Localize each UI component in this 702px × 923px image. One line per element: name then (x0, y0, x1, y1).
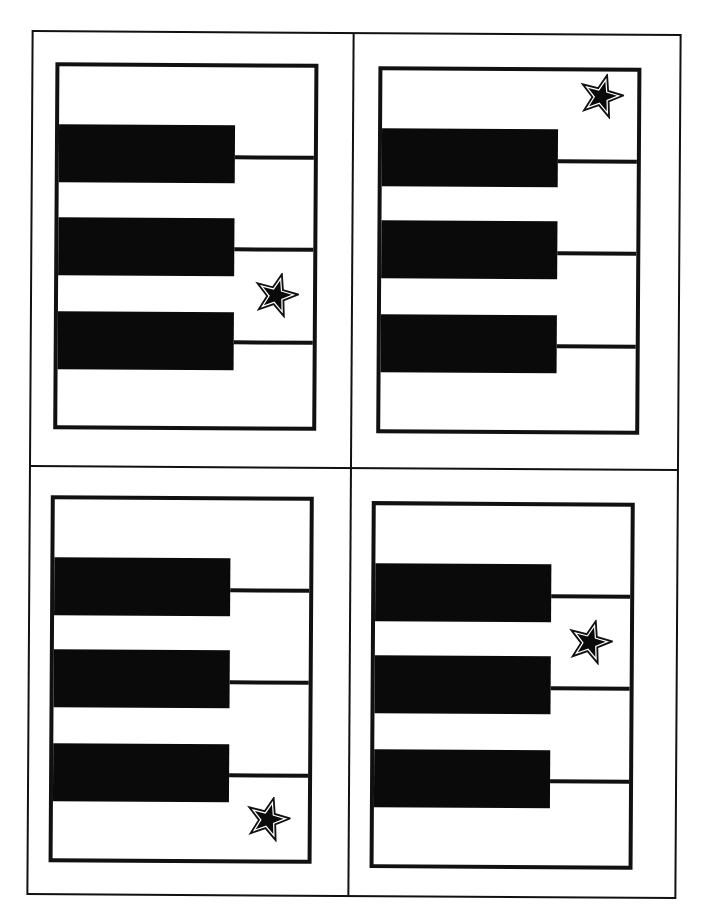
black-key-3 (374, 749, 550, 808)
black-key-3 (53, 743, 229, 802)
vertical-cut-line (347, 34, 354, 895)
white-key-divider-3 (557, 344, 636, 348)
piano-card-bottom-right (370, 501, 635, 870)
black-key-2 (58, 217, 234, 276)
white-key-divider-2 (551, 686, 630, 690)
white-key-divider-2 (230, 680, 309, 684)
horizontal-cut-line (31, 465, 677, 471)
black-key-1 (375, 563, 551, 622)
star-icon (567, 619, 613, 665)
black-key-3 (58, 311, 234, 370)
white-key-divider-1 (230, 588, 309, 592)
black-key-2 (54, 649, 230, 708)
white-key-divider-1 (551, 594, 630, 598)
black-key-2 (381, 220, 557, 279)
white-key-divider-1 (558, 159, 637, 163)
black-key-2 (374, 655, 550, 714)
white-key-divider-3 (550, 779, 629, 783)
star-icon (578, 73, 624, 119)
piano-card-top-left (53, 62, 318, 431)
white-key-divider-2 (557, 251, 636, 255)
star-icon (245, 796, 291, 842)
white-key-divider-3 (234, 340, 313, 344)
black-key-3 (381, 314, 557, 373)
piano-card-top-right (376, 66, 641, 435)
piano-card-bottom-left (49, 495, 314, 864)
white-key-divider-1 (235, 155, 314, 159)
card-sheet (26, 30, 681, 899)
black-key-1 (59, 124, 235, 183)
white-key-divider-3 (229, 773, 308, 777)
black-key-1 (54, 557, 230, 616)
star-icon (253, 272, 299, 318)
black-key-1 (382, 128, 558, 187)
white-key-divider-2 (234, 247, 313, 251)
